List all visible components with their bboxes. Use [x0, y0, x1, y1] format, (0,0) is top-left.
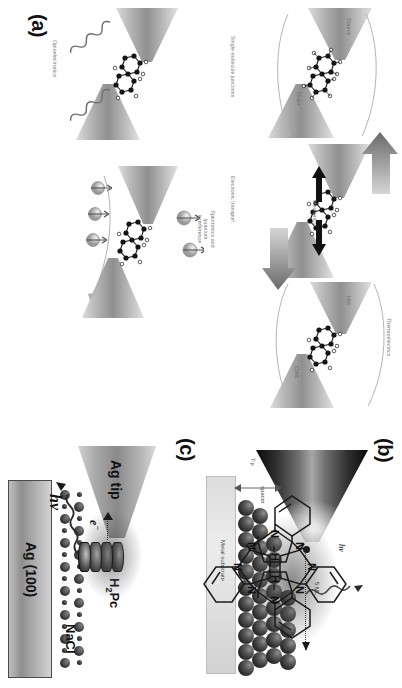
panel-c-label: (c) [175, 438, 198, 461]
electron-label: e− [86, 520, 102, 530]
phthalocyanine-structure: N N N N N N N N H H [172, 464, 378, 670]
spin-arrows-bottom [78, 174, 112, 304]
caption-spintronics-quantum-interference: Spintronics and quantum interference [197, 206, 217, 252]
nitrogen-label-4: N [269, 596, 281, 604]
junction-optoelectronics [70, 12, 186, 134]
nacl-label: NaCl [63, 624, 78, 654]
electron-arrowhead [100, 510, 114, 522]
molecule-anthracene-5 [112, 212, 152, 266]
molecule-svg [112, 212, 152, 266]
electron-minus: − [93, 525, 102, 530]
junction-spintronics [70, 176, 190, 306]
nitrogen-label-1: N [306, 563, 318, 571]
photon-wiggles-opto [56, 16, 114, 136]
panel-a: (a) Source Drain [0, 0, 402, 404]
caption-thermoelectrics: Thermoelectrics [386, 318, 392, 356]
nitrogen-label-7: N [246, 586, 258, 594]
lead-curves-1 [264, 10, 384, 140]
caption-single-molecule-junctions: Single-molecule junctions [230, 36, 236, 97]
nitrogen-label-8: N [246, 542, 258, 550]
junction-source-drain: Source Drain [266, 12, 378, 132]
nitrogen-label-6: N [294, 542, 306, 550]
molecule-svg [108, 46, 148, 100]
caption-electronic-transport: Electronic transport [230, 176, 236, 223]
caption-mechanics: Mechanics [312, 200, 318, 226]
panel-c: (c) Ag (100) [0, 436, 202, 686]
nitrogen-label-2: N [232, 563, 244, 571]
photon-label-c: hν [46, 494, 64, 510]
lead-curves-3 [264, 282, 388, 410]
nitrogen-label-3: N [269, 530, 281, 538]
panel-a-label: (a) [27, 14, 50, 37]
hydrogen-label-1: H [269, 553, 281, 561]
nitrogen-label-5: N [294, 586, 306, 594]
molecule-anthracene-4 [108, 46, 148, 100]
junction-mechanics [266, 150, 378, 270]
caption-optoelectronics: Optoelectronics [52, 40, 58, 78]
ag-tip-label: Ag tip [108, 460, 124, 500]
junction-thermoelectrics: Hot Cold [266, 286, 378, 402]
h2pc-structure-svg: N N N N N N N N H H [172, 464, 378, 670]
mechanics-block-arrows [262, 132, 392, 292]
hydrogen-label-2: H [269, 575, 281, 583]
figure-plate: (a) Source Drain [0, 0, 402, 688]
panel-b-label: (b) [373, 438, 396, 462]
